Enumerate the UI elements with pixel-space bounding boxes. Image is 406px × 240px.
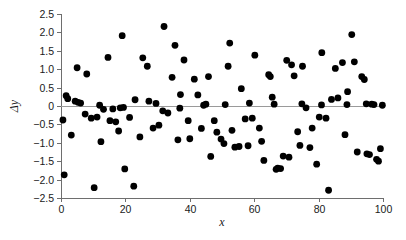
data-point bbox=[226, 40, 233, 47]
data-point bbox=[351, 58, 358, 65]
data-point bbox=[107, 117, 114, 124]
data-point bbox=[60, 117, 67, 124]
data-point bbox=[246, 100, 253, 107]
data-point bbox=[328, 96, 335, 103]
y-tick-label: 1.0 bbox=[39, 63, 54, 75]
data-point bbox=[335, 95, 342, 102]
data-point bbox=[354, 149, 361, 156]
data-point bbox=[286, 154, 293, 161]
data-point bbox=[294, 128, 301, 135]
data-point bbox=[242, 115, 249, 122]
data-point bbox=[222, 101, 229, 108]
data-point bbox=[117, 104, 124, 111]
data-point bbox=[316, 114, 323, 121]
data-point bbox=[339, 59, 346, 66]
x-tick-label: 0 bbox=[59, 203, 65, 215]
data-point bbox=[236, 143, 243, 150]
data-point bbox=[332, 65, 339, 72]
data-point bbox=[121, 166, 128, 173]
data-point bbox=[194, 92, 201, 99]
data-point bbox=[371, 101, 378, 108]
y-tick-label: 2.5 bbox=[39, 8, 54, 20]
x-tick-label: 80 bbox=[314, 203, 326, 215]
data-point bbox=[205, 73, 212, 80]
data-point bbox=[251, 52, 258, 59]
data-point bbox=[313, 161, 320, 168]
data-point bbox=[186, 135, 193, 142]
data-point bbox=[225, 63, 232, 70]
data-point bbox=[126, 114, 133, 121]
data-point bbox=[146, 98, 153, 105]
x-tick-label: 40 bbox=[185, 203, 197, 215]
data-point bbox=[82, 111, 89, 118]
data-point bbox=[307, 144, 314, 151]
data-point bbox=[94, 114, 101, 121]
chart-page: 2.52.01.51.00.50−0.5−1.0−1.5−2.0−2.5 020… bbox=[0, 0, 406, 240]
y-tick-label: 0.5 bbox=[39, 82, 54, 94]
data-point bbox=[249, 115, 256, 122]
data-point bbox=[256, 125, 263, 132]
x-tick-label: 20 bbox=[120, 203, 132, 215]
data-point bbox=[271, 101, 278, 108]
data-point bbox=[174, 136, 181, 143]
scatter-points bbox=[60, 23, 386, 194]
data-point bbox=[161, 23, 168, 30]
y-tick-label: −2.5 bbox=[33, 192, 54, 204]
data-point bbox=[291, 72, 298, 79]
data-point bbox=[119, 32, 126, 39]
data-point bbox=[318, 102, 325, 109]
x-tick-label: 100 bbox=[375, 203, 393, 215]
data-point bbox=[98, 138, 105, 145]
y-tick-label: 2.0 bbox=[39, 26, 54, 38]
data-point bbox=[298, 100, 305, 107]
data-point bbox=[176, 105, 183, 112]
data-point bbox=[61, 171, 68, 178]
data-point bbox=[361, 76, 368, 83]
data-point bbox=[191, 76, 198, 83]
data-point bbox=[177, 91, 184, 98]
data-point bbox=[172, 42, 179, 49]
data-point bbox=[132, 96, 139, 103]
data-point bbox=[297, 142, 304, 149]
x-axis-ticks: 020406080100 bbox=[59, 198, 393, 215]
data-point bbox=[207, 153, 214, 160]
data-point bbox=[377, 145, 384, 152]
data-point bbox=[280, 153, 287, 160]
y-tick-label: −2.0 bbox=[33, 174, 54, 186]
data-point bbox=[130, 183, 137, 190]
data-point bbox=[260, 157, 267, 164]
data-point bbox=[155, 122, 162, 129]
data-point bbox=[64, 95, 71, 102]
data-point bbox=[185, 117, 192, 124]
y-tick-label: −1.0 bbox=[33, 137, 54, 149]
data-point bbox=[144, 63, 151, 70]
data-point bbox=[88, 115, 95, 122]
data-point bbox=[229, 127, 236, 134]
x-axis-title: x bbox=[218, 215, 225, 229]
data-point bbox=[91, 184, 98, 191]
y-tick-label: 1.5 bbox=[39, 45, 54, 57]
scatter-plot-figure: 2.52.01.51.00.50−0.5−1.0−1.5−2.0−2.5 020… bbox=[0, 0, 406, 240]
data-point bbox=[238, 85, 245, 92]
data-point bbox=[323, 115, 330, 122]
data-point bbox=[245, 142, 252, 149]
data-point bbox=[309, 125, 316, 132]
y-tick-label: 0 bbox=[48, 100, 54, 112]
data-point bbox=[150, 125, 157, 132]
data-point bbox=[344, 88, 351, 95]
data-point bbox=[105, 54, 112, 61]
data-point bbox=[325, 187, 332, 194]
y-axis-ticks: 2.52.01.51.00.50−0.5−1.0−1.5−2.0−2.5 bbox=[33, 8, 61, 204]
data-point bbox=[379, 102, 386, 109]
data-point bbox=[77, 100, 84, 107]
data-point bbox=[96, 102, 103, 109]
data-point bbox=[348, 31, 355, 38]
data-point bbox=[318, 49, 325, 56]
data-point bbox=[198, 125, 205, 132]
y-axis-title: Δy bbox=[7, 99, 21, 113]
data-point bbox=[181, 57, 188, 64]
data-point bbox=[112, 118, 119, 125]
data-point bbox=[363, 100, 370, 107]
data-point bbox=[288, 61, 295, 68]
data-point bbox=[153, 100, 160, 107]
